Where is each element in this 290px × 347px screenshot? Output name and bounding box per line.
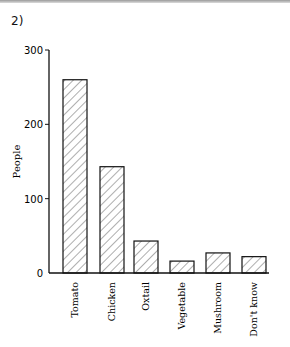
x-tick-label: Mushroom bbox=[212, 282, 223, 334]
y-axis-label: People bbox=[11, 145, 22, 179]
bar-mushroom bbox=[206, 253, 230, 273]
bar-oxtail bbox=[134, 241, 158, 273]
bar-tomato bbox=[63, 80, 87, 273]
bar-chicken bbox=[100, 167, 124, 273]
x-tick-label: Tomato bbox=[69, 282, 80, 318]
y-tick-label: 100 bbox=[24, 194, 43, 205]
x-tick-label: Oxtail bbox=[140, 282, 151, 311]
y-tick-label: 0 bbox=[37, 268, 43, 279]
y-tick-label: 300 bbox=[24, 45, 43, 56]
x-tick-label: Vegetable bbox=[176, 282, 187, 331]
bar-don-t-know bbox=[242, 257, 266, 273]
x-tick-label: Don't know bbox=[248, 282, 259, 337]
x-tick-labels: TomatoChickenOxtailVegetableMushroomDon'… bbox=[69, 282, 259, 337]
y-tick-label: 200 bbox=[24, 119, 43, 130]
bars bbox=[63, 80, 266, 273]
bar-chart: 0100200300People TomatoChickenOxtailVege… bbox=[0, 0, 290, 347]
x-tick-label: Chicken bbox=[106, 282, 117, 321]
bar-vegetable bbox=[170, 261, 194, 273]
